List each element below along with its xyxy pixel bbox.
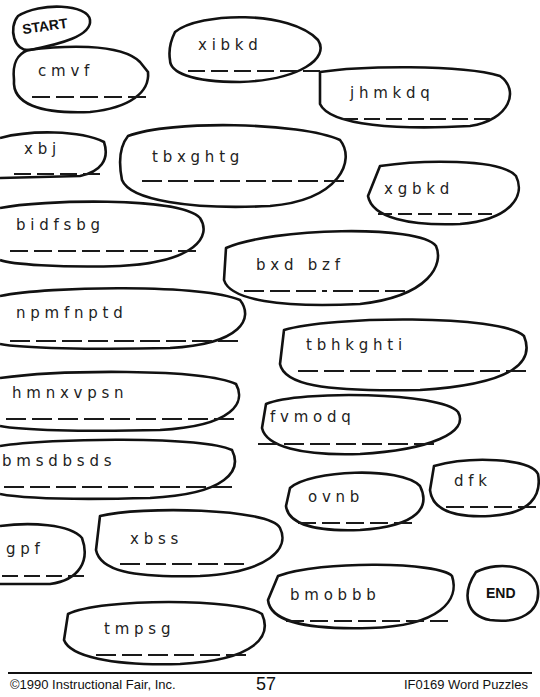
answer-blanks[interactable] <box>10 250 196 252</box>
copyright-text: ©1990 Instructional Fair, Inc. <box>10 677 176 692</box>
bubble-letters: h m n x v p s n <box>12 384 124 402</box>
answer-blanks[interactable] <box>2 575 84 577</box>
book-title: IF0169 Word Puzzles <box>404 677 528 692</box>
bubble-letters: b i d f s b g <box>16 216 100 234</box>
bubble-letters: g p f <box>6 540 40 558</box>
bubble-letters: d f k <box>454 472 487 490</box>
answer-blanks[interactable] <box>120 563 244 565</box>
answer-blanks[interactable] <box>142 180 344 182</box>
answer-blanks[interactable] <box>378 213 492 215</box>
answer-blanks[interactable] <box>10 340 238 342</box>
answer-blanks[interactable] <box>298 522 412 524</box>
bubble-letters: b m s d b s d s <box>2 452 112 470</box>
bubble-letters: x b s s <box>130 530 178 548</box>
answer-blanks[interactable] <box>244 290 405 292</box>
bubble-letters: x i b k d <box>198 36 258 54</box>
bubble-letters: o v n b <box>308 488 359 506</box>
bubble-letters: f v m o d q <box>270 408 351 426</box>
bubble-letters: x b j <box>24 140 56 158</box>
answer-blanks[interactable] <box>258 443 434 445</box>
bubble-letters: c m v f <box>38 62 89 80</box>
answer-blanks[interactable] <box>32 96 146 98</box>
answer-blanks[interactable] <box>446 506 536 508</box>
answer-blanks[interactable] <box>298 370 526 372</box>
answer-blanks[interactable] <box>6 418 234 420</box>
bubble-letters: t m p s g <box>104 620 170 638</box>
answer-blanks[interactable] <box>188 70 320 72</box>
answer-blanks[interactable] <box>96 654 246 656</box>
end-label: END <box>486 585 516 601</box>
answer-blanks[interactable] <box>14 173 100 175</box>
bubble-path-outlines <box>0 0 540 697</box>
bubble-letters: j h m k d q <box>350 84 430 102</box>
page-number: 57 <box>256 674 276 695</box>
bubble-letters: b m o b b b <box>290 586 376 604</box>
answer-blanks[interactable] <box>286 620 448 622</box>
bubble-letters: n p m f n p t d <box>16 304 123 322</box>
bubble-letters: x g b k d <box>384 180 449 198</box>
bubble-letters: t b h k g h t i <box>306 336 402 354</box>
answer-blanks[interactable] <box>4 486 232 488</box>
bubble-letters: b x d b z f <box>256 256 340 274</box>
bubble-letters: t b x g h t g <box>152 148 239 166</box>
answer-blanks[interactable] <box>342 118 490 120</box>
